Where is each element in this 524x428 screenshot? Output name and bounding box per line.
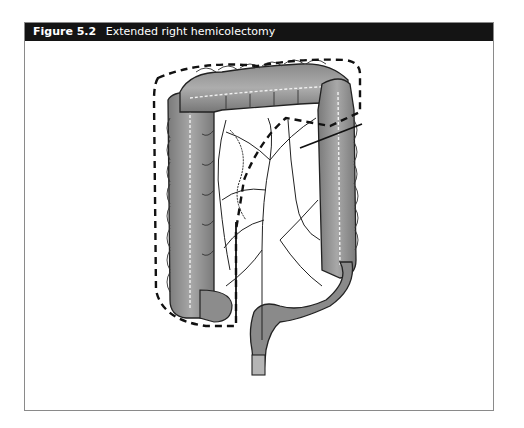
descending-colon [318, 79, 358, 278]
ascending-colon [167, 92, 232, 322]
sigmoid-rectum [250, 262, 352, 375]
colon-illustration [0, 0, 524, 428]
